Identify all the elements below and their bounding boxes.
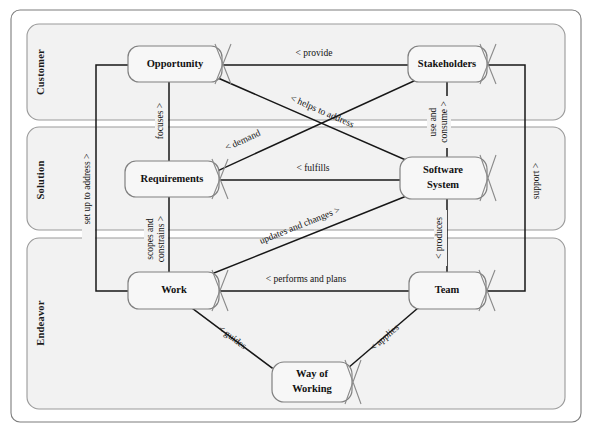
rel-label-performs-and-plans: < performs and plans: [266, 274, 347, 284]
node-label-requirements: Requirements: [141, 173, 204, 184]
rel-label-group-provide: < provide: [278, 47, 350, 60]
node-label-software-system-line2: System: [427, 179, 459, 190]
rel-label-scopes-and-constrains-line1: scopes and: [145, 218, 155, 260]
node-stakeholders[interactable]: Stakeholders: [408, 44, 496, 84]
node-label-software-system-line1: Software: [423, 164, 463, 175]
essence-kernel-diagram: Customer Solution Endeavor: [0, 0, 592, 432]
node-label-way-of-working-line2: Working: [292, 383, 332, 394]
rel-label-fulfills: < fulfills: [296, 163, 329, 173]
rel-label-support: support >: [531, 163, 541, 199]
rel-label-group-produces: < produces: [434, 210, 447, 266]
rel-label-set-up-to-address: set up to address >: [82, 154, 92, 225]
lane-label-solution: Solution: [35, 161, 46, 200]
node-team[interactable]: Team: [409, 270, 495, 311]
rel-label-produces: < produces: [434, 217, 444, 259]
node-label-way-of-working-line1: Way of: [296, 368, 328, 379]
rel-label-use-and-consume-line1: use and: [428, 107, 438, 136]
node-label-work: Work: [161, 284, 187, 295]
rel-label-group-set-up-to-address: set up to address >: [82, 134, 95, 244]
rel-label-focuses: focuses >: [155, 103, 165, 139]
lane-label-endeavor: Endeavor: [35, 300, 46, 345]
node-work[interactable]: Work: [128, 270, 228, 311]
rel-label-group-use-and-consume: use and consume >: [427, 96, 451, 148]
node-label-stakeholders: Stakeholders: [418, 58, 476, 69]
rel-label-use-and-consume-line2: consume >: [439, 101, 449, 143]
node-requirements[interactable]: Requirements: [125, 159, 228, 199]
rel-label-scopes-and-constrains-line2: constrains >: [156, 216, 166, 262]
node-software-system[interactable]: Software System: [400, 155, 496, 201]
rel-label-group-support: support >: [531, 150, 544, 212]
diagram-canvas: Customer Solution Endeavor: [0, 0, 592, 432]
node-label-team: Team: [435, 284, 460, 295]
rel-label-group-focuses: focuses >: [155, 97, 168, 144]
node-opportunity[interactable]: Opportunity: [128, 44, 231, 84]
node-software-system-box[interactable]: [400, 157, 487, 199]
lane-label-customer: Customer: [35, 49, 46, 95]
node-way-of-working[interactable]: Way of Working: [272, 360, 361, 404]
rel-label-provide: < provide: [296, 48, 333, 58]
rel-label-group-performs-and-plans: < performs and plans: [242, 273, 370, 286]
rel-label-group-fulfills: < fulfills: [283, 162, 345, 175]
node-label-opportunity: Opportunity: [147, 58, 204, 69]
rel-label-group-scopes-and-constrains: scopes and constrains >: [144, 210, 168, 268]
